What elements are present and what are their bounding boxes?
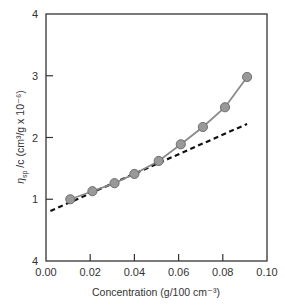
x-axis-title: Concentration (g/100 cm⁻³)	[92, 286, 220, 298]
data-point	[154, 156, 163, 165]
data-point	[220, 103, 229, 112]
y-tick-label: 2	[32, 132, 38, 144]
data-point	[198, 122, 207, 131]
y-tick-label: 3	[32, 70, 38, 82]
measured-series	[66, 72, 252, 203]
x-axis-ticks: 0.000.020.040.060.080.10	[35, 254, 277, 278]
data-point	[243, 72, 252, 81]
plot-frame	[46, 14, 267, 261]
chart: 41234 0.000.020.040.060.080.10 Concentra…	[0, 0, 285, 308]
x-tick-label: 0.08	[212, 266, 233, 278]
x-tick-label: 0.02	[79, 266, 100, 278]
x-tick-label: 0.00	[35, 266, 56, 278]
data-point	[110, 179, 119, 188]
data-point	[130, 169, 139, 178]
x-tick-label: 0.10	[256, 266, 277, 278]
y-axis-ticks: 41234	[32, 8, 53, 267]
linear-fit-line	[50, 124, 247, 211]
x-tick-label: 0.06	[168, 266, 189, 278]
data-point	[88, 187, 97, 196]
x-tick-label: 0.04	[124, 266, 145, 278]
data-point	[66, 195, 75, 204]
y-axis-title: ηsp /c (cm³/g x 10⁻⁶)	[14, 90, 29, 184]
data-point	[176, 140, 185, 149]
y-tick-label: 4	[32, 8, 38, 20]
y-tick-label: 1	[32, 193, 38, 205]
